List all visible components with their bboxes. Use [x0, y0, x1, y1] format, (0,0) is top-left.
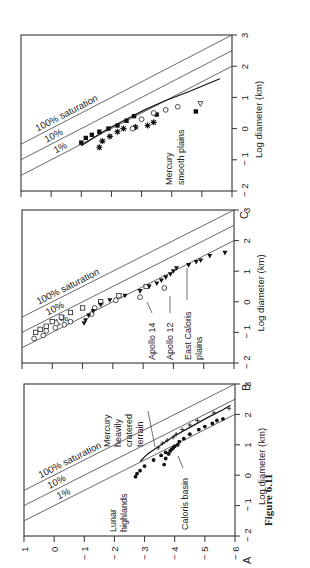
tick-label: 3	[239, 33, 250, 38]
tick-label: 1	[239, 95, 250, 100]
tick-label: 0	[241, 300, 252, 305]
annotation-apollo-12: Apollo 12	[165, 322, 175, 360]
tick-label: − 2	[241, 356, 252, 369]
data-point	[97, 130, 101, 134]
tick-label: − 6	[230, 547, 241, 560]
data-point	[163, 107, 168, 112]
tick-label: − 4	[169, 547, 180, 560]
saturation-label: 100% saturation	[37, 439, 103, 480]
annotation-lunar-highlands: Lunar	[108, 509, 118, 532]
data-point	[162, 463, 166, 467]
data-point	[120, 126, 126, 132]
data-point	[117, 293, 121, 297]
data-point	[90, 133, 94, 137]
annotation-east-caloris: plains	[194, 336, 204, 360]
annotations-c: Mercurysmooth plains	[164, 129, 186, 185]
saturation-label: 100% saturation	[33, 92, 99, 133]
data-point	[215, 419, 219, 423]
data-point	[38, 327, 42, 331]
data-point	[145, 122, 151, 128]
data-point	[62, 322, 67, 327]
data-point	[99, 138, 105, 144]
data-point	[124, 119, 128, 123]
data-point	[212, 411, 216, 415]
data-point	[168, 272, 173, 277]
data-point	[188, 432, 192, 436]
tick-label: − 1	[79, 547, 90, 560]
tick-label: 0	[239, 126, 250, 131]
annotation-caloris-basin: Caloris basin	[180, 478, 190, 530]
data-point	[198, 258, 203, 263]
data-point	[59, 315, 63, 319]
tick-label: 1	[242, 443, 253, 448]
data-point	[135, 472, 139, 476]
saturation-label: 100% saturation	[35, 266, 101, 307]
saturation-line-0	[22, 210, 234, 317]
data-point	[151, 111, 156, 116]
data-point	[107, 133, 113, 139]
data-point	[162, 286, 167, 291]
tick-label: 2	[241, 238, 252, 243]
x-axis-title: Log diameter (km)	[253, 81, 264, 158]
data-point	[222, 251, 227, 256]
tick-label: − 2	[239, 184, 250, 197]
x-axis-title: Log diameter (km)	[255, 254, 266, 331]
data-point	[138, 469, 142, 473]
panel-letter: A	[241, 556, 253, 564]
data-point	[32, 336, 37, 341]
data-point	[139, 117, 144, 122]
data-point	[154, 281, 159, 286]
data-point	[164, 451, 168, 455]
annotation-apollo-14: Apollo 14	[147, 322, 157, 360]
data-point	[96, 144, 102, 150]
data-point	[44, 328, 49, 333]
panel-b: 100% saturation10%1%− 2− 10123Log diamet…	[22, 208, 266, 391]
data-point	[115, 123, 119, 127]
data-point	[106, 126, 110, 130]
data-point	[221, 417, 225, 421]
data-point	[44, 324, 48, 328]
tick-label: 1	[19, 547, 30, 552]
data-point	[132, 114, 136, 118]
data-point	[50, 319, 54, 323]
data-point	[203, 425, 207, 429]
data-point	[122, 294, 127, 299]
tick-label: − 1	[241, 325, 252, 338]
data-point	[113, 298, 118, 303]
tick-label: 0	[49, 547, 60, 552]
data-point	[207, 254, 212, 259]
data-point	[194, 260, 199, 265]
series-curve	[140, 405, 230, 461]
data-point	[159, 454, 163, 458]
tick-label: − 2	[109, 547, 120, 560]
saturation-line-0	[21, 35, 232, 144]
tick-label: − 1	[242, 498, 253, 511]
data-point	[163, 275, 168, 280]
data-point	[80, 306, 84, 310]
panel-letter: C	[238, 211, 250, 219]
data-point	[79, 140, 83, 144]
data-point	[194, 109, 198, 113]
tick-label: 0	[242, 473, 253, 478]
annotation-lunar-highlands: highlands	[119, 493, 129, 532]
panel-a: 100% saturation10%1%− 2− 10123Log diamet…	[19, 382, 268, 564]
figure-caption: Figure 6.11	[262, 474, 274, 526]
data-point	[197, 428, 201, 432]
tick-label: − 5	[199, 547, 210, 560]
tick-label: − 3	[139, 547, 150, 560]
data-point	[84, 136, 88, 140]
annotation-mercury-terrain: terrain	[135, 421, 145, 447]
annotation-mercury-terrain: cratered	[124, 414, 134, 447]
data-point	[210, 422, 214, 426]
data-point	[143, 464, 147, 468]
data-point	[114, 129, 120, 135]
saturation-line-1	[22, 225, 234, 332]
annotation-mercury-terrain: Mercury	[102, 414, 112, 447]
tick-label: − 2	[242, 529, 253, 542]
data-point	[164, 457, 168, 461]
data-point	[159, 278, 164, 283]
tick-label: 2	[239, 64, 250, 69]
tick-label: 2	[242, 412, 253, 417]
tick-label: − 1	[239, 152, 250, 165]
data-point	[186, 263, 191, 268]
